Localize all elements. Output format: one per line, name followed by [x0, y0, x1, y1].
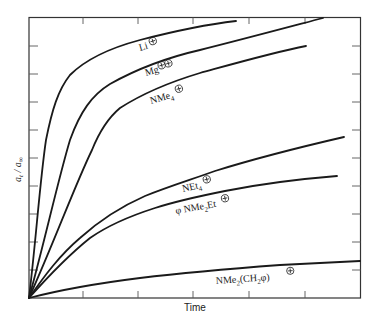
cation-charge-icon	[221, 194, 229, 202]
label-phinme2et-text: φ NMe	[174, 200, 205, 216]
label-nme2ch2phi: NMe2(CH2φ)	[215, 267, 295, 289]
svg-text:NMe2(CH2φ): NMe2(CH2φ)	[215, 271, 270, 289]
label-nme2ch2phi-text: NMe	[215, 274, 237, 286]
kinetics-chart: Li Mg NMe4 NEt4	[0, 0, 374, 325]
plot-frame	[29, 18, 361, 299]
curve-phinme2et	[29, 176, 337, 298]
curve-nme4	[29, 46, 306, 298]
cation-charge-icon	[202, 175, 211, 184]
x-ticks	[83, 18, 305, 299]
x-axis-label: Time	[184, 302, 206, 313]
y-axis-label: at / a∞	[12, 157, 25, 182]
label-mg-text: Mg	[144, 64, 160, 78]
label-nme4: NMe4	[148, 84, 186, 109]
label-nme4-text: NMe	[149, 90, 172, 106]
curve-mg	[29, 18, 323, 298]
cation-charge-icon	[174, 84, 183, 93]
label-net4-text: NEt	[181, 180, 199, 194]
y-ticks	[29, 46, 361, 270]
svg-text:at / a∞: at / a∞	[12, 157, 25, 182]
label-li-text: Li	[138, 40, 150, 53]
svg-text:NMe4: NMe4	[149, 89, 176, 109]
cation-charge-icon	[286, 267, 294, 275]
label-phinme2et: φ NMe2Et	[174, 194, 230, 219]
curve-nme2ch2phi	[29, 261, 360, 298]
